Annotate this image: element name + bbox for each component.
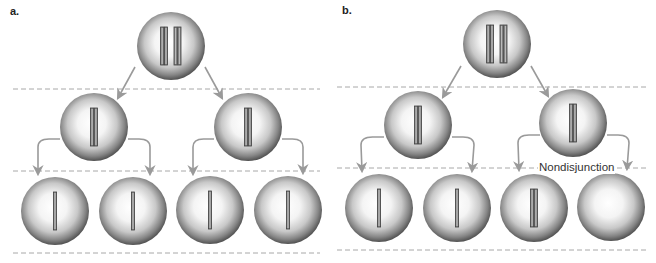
- cell-body-icon: [137, 12, 205, 80]
- arrow-icon: [443, 66, 461, 97]
- cell-b-meiosis-i-cell-right: [539, 89, 607, 157]
- cell-body-icon: [463, 10, 531, 78]
- figure-canvas: [0, 0, 656, 263]
- arrow-icon: [452, 137, 474, 171]
- cells: [21, 10, 645, 245]
- arrow-icon: [193, 139, 214, 174]
- panel-label-b: b.: [342, 4, 352, 16]
- cell-a-meiosis-i-cell-left: [60, 93, 128, 161]
- cell-b-gamete-4-nondisjunction-empty: [577, 173, 645, 241]
- arrow-icon: [282, 139, 303, 173]
- arrow-icon: [518, 135, 540, 170]
- meiosis-nondisjunction-figure: a. b. Nondisjunction: [0, 0, 656, 263]
- cell-b-gamete-3-nondisjunction-extra: [500, 174, 568, 242]
- panel-label-a: a.: [10, 5, 19, 17]
- cell-a-gamete-3: [176, 176, 244, 244]
- arrow-icon: [38, 139, 60, 174]
- arrow-icon: [118, 67, 135, 98]
- cell-a-meiosis-i-cell-right: [214, 93, 282, 161]
- cell-b-meiosis-i-cell-left: [384, 91, 452, 159]
- nondisjunction-label: Nondisjunction: [538, 161, 615, 174]
- cell-a-gamete-4: [254, 176, 322, 244]
- arrow-icon: [205, 67, 222, 98]
- arrow-icon: [128, 139, 150, 174]
- cell-b-gamete-1: [345, 174, 413, 242]
- cell-a-gamete-1: [21, 177, 89, 245]
- cell-a-parent-cell: [137, 12, 205, 80]
- cell-a-gamete-2: [99, 177, 167, 245]
- cell-b-parent-cell: [463, 10, 531, 78]
- arrow-icon: [531, 66, 548, 96]
- arrow-icon: [361, 137, 384, 171]
- cell-b-gamete-2: [423, 174, 491, 242]
- cell-body-icon: [577, 173, 645, 241]
